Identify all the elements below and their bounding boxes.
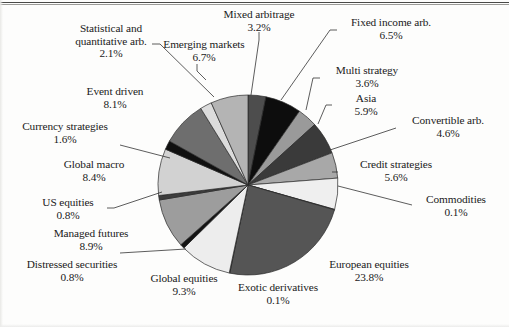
- label-emerging-markets: Emerging markets 6.7%: [150, 38, 258, 63]
- label-asia-line1: Asia: [334, 92, 398, 105]
- label-credit-pct: 5.6%: [340, 171, 452, 184]
- label-global-macro-pct: 8.4%: [42, 171, 146, 184]
- label-global-equities: Global equities 9.3%: [132, 272, 236, 297]
- label-managed-futures: Managed futures 8.9%: [36, 227, 146, 252]
- label-currency-strategies: Currency strategies 1.6%: [6, 120, 124, 145]
- label-fixed-income-arb: Fixed income arb. 6.5%: [332, 16, 450, 41]
- label-credit-strategies: Credit strategies 5.6%: [340, 158, 452, 183]
- label-multi-pct: 3.6%: [317, 77, 417, 90]
- leader-line-currency: [120, 145, 170, 158]
- label-global-macro: Global macro 8.4%: [42, 158, 146, 183]
- pie-chart-figure: Mixed arbitrage 3.2%Fixed income arb. 6.…: [0, 0, 509, 327]
- label-currency-pct: 1.6%: [6, 133, 124, 146]
- label-exotic-derivatives: Exotic derivatives 0.1%: [222, 281, 334, 306]
- label-asia-pct: 5.9%: [334, 105, 398, 118]
- label-convertible-arb: Convertible arb. 4.6%: [392, 114, 504, 139]
- label-fixed-line1: Fixed income arb.: [332, 16, 450, 29]
- pie-slices-group: Mixed arbitrage 3.2%Fixed income arb. 6.…: [158, 95, 338, 275]
- label-multi-line1: Multi strategy: [317, 64, 417, 77]
- label-mixed-line1: Mixed arbitrage: [207, 8, 311, 21]
- leader-line-asia: [318, 105, 332, 124]
- label-exotic-line1: Exotic derivatives: [222, 281, 334, 294]
- label-european-equities: European equities 23.8%: [311, 258, 427, 283]
- label-convertible-pct: 4.6%: [392, 127, 504, 140]
- label-managed-pct: 8.9%: [36, 240, 146, 253]
- label-asia: Asia 5.9%: [334, 92, 398, 117]
- label-fixed-pct: 6.5%: [332, 29, 450, 42]
- label-global-equities-pct: 9.3%: [132, 285, 236, 298]
- label-emerging-pct: 6.7%: [150, 51, 258, 64]
- leader-line-us-equities: [107, 192, 162, 208]
- label-emerging-line1: Emerging markets: [150, 38, 258, 51]
- label-distressed-pct: 0.8%: [10, 271, 134, 284]
- label-commodities-pct: 0.1%: [410, 206, 502, 219]
- label-us-equities-line1: US equities: [26, 196, 110, 209]
- label-statistical-line1: Statistical and: [46, 22, 176, 35]
- leader-line-convertible: [330, 128, 396, 150]
- label-global-macro-line1: Global macro: [42, 158, 146, 171]
- label-event-pct: 8.1%: [64, 98, 166, 111]
- leader-line-emerging: [197, 64, 206, 80]
- label-us-equities-pct: 0.8%: [26, 209, 110, 222]
- label-distressed-line1: Distressed securities: [10, 258, 134, 271]
- label-commodities: Commodities 0.1%: [410, 193, 502, 218]
- label-us-equities: US equities 0.8%: [26, 196, 110, 221]
- label-event-line1: Event driven: [64, 85, 166, 98]
- label-multi-strategy: Multi strategy 3.6%: [317, 64, 417, 89]
- label-mixed-pct: 3.2%: [207, 21, 311, 34]
- label-credit-line1: Credit strategies: [340, 158, 452, 171]
- label-global-equities-line1: Global equities: [132, 272, 236, 285]
- leader-line-commodities: [338, 186, 412, 205]
- label-managed-line1: Managed futures: [36, 227, 146, 240]
- label-mixed-arbitrage: Mixed arbitrage 3.2%: [207, 8, 311, 33]
- label-event-driven: Event driven 8.1%: [64, 85, 166, 110]
- label-european-line1: European equities: [311, 258, 427, 271]
- label-commodities-line1: Commodities: [410, 193, 502, 206]
- label-exotic-pct: 0.1%: [222, 294, 334, 307]
- label-distressed-securities: Distressed securities 0.8%: [10, 258, 134, 283]
- label-convertible-line1: Convertible arb.: [392, 114, 504, 127]
- label-currency-line1: Currency strategies: [6, 120, 124, 133]
